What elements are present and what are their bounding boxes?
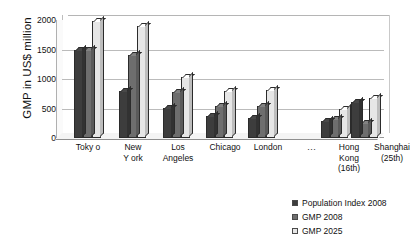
bar-side-face — [91, 45, 95, 137]
y-tick-label: 2000 — [22, 16, 56, 25]
chart-legend: Population Index 2008GMP 2008GMP 2025 — [292, 196, 411, 238]
bar-group — [321, 20, 352, 138]
x-axis-category-labels: Toky oNew Y orkLos AngelesChicagoLondon…… — [62, 142, 402, 190]
bar-side-face — [189, 72, 193, 137]
plot-top-gridline — [68, 15, 390, 16]
legend-label: GMP 2008 — [302, 212, 342, 222]
y-tick-label: 0 — [22, 134, 56, 143]
bar-group — [163, 20, 194, 138]
bar-population-index-2008 — [206, 116, 215, 138]
legend-item[interactable]: Population Index 2008 — [292, 196, 411, 209]
bar-side-face — [214, 111, 218, 137]
gmp-bar-chart: GMP in US$ million 2000150010005000 Toky… — [0, 0, 411, 247]
bars-layer — [62, 20, 384, 138]
y-tick-label: 1000 — [22, 75, 56, 84]
bar-side-face — [171, 103, 175, 137]
bar-group — [74, 20, 105, 138]
legend-label: GMP 2025 — [302, 226, 342, 236]
legend-item[interactable]: GMP 2025 — [292, 224, 411, 237]
bar-side-face — [377, 93, 381, 137]
bar-group — [119, 20, 150, 138]
plot-area — [62, 15, 392, 138]
bar-population-index-2008 — [74, 50, 83, 138]
y-axis-tick-labels: 2000150010005000 — [22, 0, 56, 247]
bar-side-face — [338, 114, 342, 137]
plot-right-edge — [389, 15, 390, 133]
legend-swatch-icon — [292, 228, 298, 234]
legend-swatch-icon — [292, 214, 298, 220]
y-tick-label: 1500 — [22, 46, 56, 55]
bar-side-face — [180, 87, 184, 137]
legend-swatch-icon — [292, 200, 298, 206]
bar-side-face — [256, 113, 260, 137]
bar-side-face — [223, 101, 227, 137]
bar-population-index-2008 — [248, 118, 257, 138]
bar-side-face — [127, 86, 131, 137]
bar-side-face — [232, 86, 236, 137]
bar-group — [248, 20, 279, 138]
bar-side-face — [145, 21, 149, 137]
legend-item[interactable]: GMP 2008 — [292, 210, 411, 223]
bar-side-face — [100, 16, 104, 137]
bar-population-index-2008 — [321, 121, 330, 138]
bar-side-face — [136, 50, 140, 137]
bar-side-face — [359, 97, 363, 137]
y-tick-label: 500 — [22, 105, 56, 114]
bar-side-face — [82, 45, 86, 137]
legend-label: Population Index 2008 — [302, 198, 387, 208]
x-axis-label: Shanghai (25th) — [364, 142, 411, 163]
bar-group — [206, 20, 237, 138]
bar-side-face — [274, 85, 278, 137]
bar-side-face — [265, 101, 269, 137]
bar-group — [351, 20, 382, 138]
bar-population-index-2008 — [119, 91, 128, 138]
bar-population-index-2008 — [351, 102, 360, 138]
bar-population-index-2008 — [163, 108, 172, 138]
